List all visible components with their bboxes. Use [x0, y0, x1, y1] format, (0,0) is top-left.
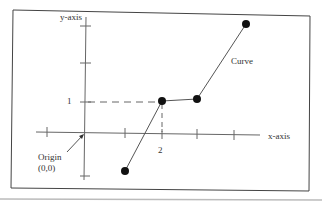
curve-line	[125, 24, 246, 171]
origin-label: Origin	[38, 152, 62, 162]
curve-point	[242, 20, 250, 28]
curve-point	[193, 95, 201, 103]
curve-point	[158, 97, 166, 105]
coordinate-diagram: y-axis x-axis Curve Origin (0,0) 1 2	[0, 0, 322, 202]
y-axis-label: y-axis	[60, 12, 82, 22]
y-tick-label: 1	[67, 96, 72, 106]
curve-label: Curve	[231, 56, 253, 66]
x-axis-line	[36, 132, 260, 135]
x-axis-label: x-axis	[268, 131, 290, 141]
curve-point	[121, 167, 129, 175]
page-edge	[0, 199, 322, 200]
origin-coords-label: (0,0)	[38, 163, 55, 173]
y-axis-line	[84, 17, 86, 180]
x-tick-label: 2	[158, 145, 163, 155]
